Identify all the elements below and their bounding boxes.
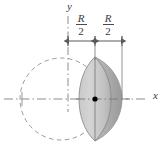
dimension-label-left-numerator: R [70, 13, 92, 23]
geometry-figure: y x R 2 R 2 [0, 0, 167, 162]
dimension-label-right: R 2 [97, 13, 119, 36]
y-axis-label: y [67, 1, 72, 12]
x-axis-label: x [153, 90, 158, 101]
dimension-label-left-denominator: 2 [70, 26, 92, 36]
dimension-label-left: R 2 [70, 13, 92, 36]
centroid-dot [92, 96, 97, 101]
dimension-label-right-numerator: R [97, 13, 119, 23]
dimension-label-right-denominator: 2 [97, 26, 119, 36]
